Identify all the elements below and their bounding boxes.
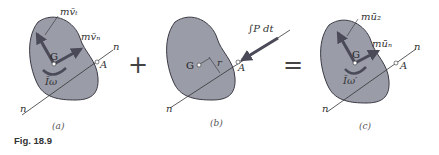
label-couple-c: Īω′ — [342, 75, 358, 86]
panel-c: G A n n mū₂ mūₙ Īω′ (c) — [321, 11, 421, 131]
label-n-bottom-a: n — [20, 103, 26, 114]
label-couple-a: Īω — [44, 76, 57, 87]
equals-operator: = — [283, 51, 303, 79]
sublabel-c: (c) — [359, 121, 372, 131]
label-n-top-c: n — [414, 41, 420, 52]
label-G-c: G — [352, 49, 360, 60]
label-G-b: G — [186, 60, 194, 71]
label-n-bottom-b: n — [166, 103, 172, 114]
label-mun-c: mūₙ — [372, 38, 392, 49]
label-G-a: G — [50, 51, 58, 62]
panel-b: G A r n ∫P dt (b) — [166, 17, 290, 128]
centroid-G-a — [52, 62, 56, 66]
point-A-a — [95, 60, 99, 64]
plus-operator: + — [128, 51, 148, 79]
point-A-c — [394, 61, 398, 65]
label-A-a: A — [99, 59, 107, 70]
figure-caption: Fig. 18.9 — [14, 135, 52, 146]
label-A-b: A — [237, 62, 245, 73]
label-impulse-b: ∫P dt — [248, 23, 275, 34]
centroid-G-b — [197, 63, 201, 67]
label-A-c: A — [399, 60, 407, 71]
label-mvt-a: mv̄ₜ — [60, 6, 78, 17]
label-n-bottom-c: n — [322, 103, 328, 114]
sublabel-a: (a) — [52, 121, 65, 131]
panel-a: G A n n mv̄ₜ mv̄ₙ Īω (a) — [20, 6, 119, 131]
label-n-top-a: n — [113, 41, 119, 52]
impulse-arrow-b — [242, 38, 278, 60]
label-mut-c: mū₂ — [361, 11, 381, 22]
sublabel-b: (b) — [210, 118, 223, 128]
impulse-diagram: G A n n mv̄ₜ mv̄ₙ Īω (a) + G A r n ∫P dt… — [0, 0, 439, 155]
centroid-G-c — [353, 61, 357, 65]
label-mvn-a: mv̄ₙ — [81, 31, 100, 42]
